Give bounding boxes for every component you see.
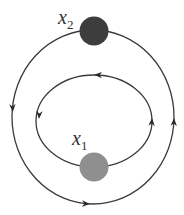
- node-x1-dot-icon: [80, 153, 109, 182]
- node-x2: x2: [57, 6, 109, 46]
- orbit-diagram: x2 x1: [0, 0, 184, 215]
- node-x1-label: x1: [71, 127, 87, 153]
- node-x2-label: x2: [57, 6, 73, 32]
- node-x1: x1: [71, 127, 109, 182]
- node-x2-dot-icon: [80, 17, 109, 46]
